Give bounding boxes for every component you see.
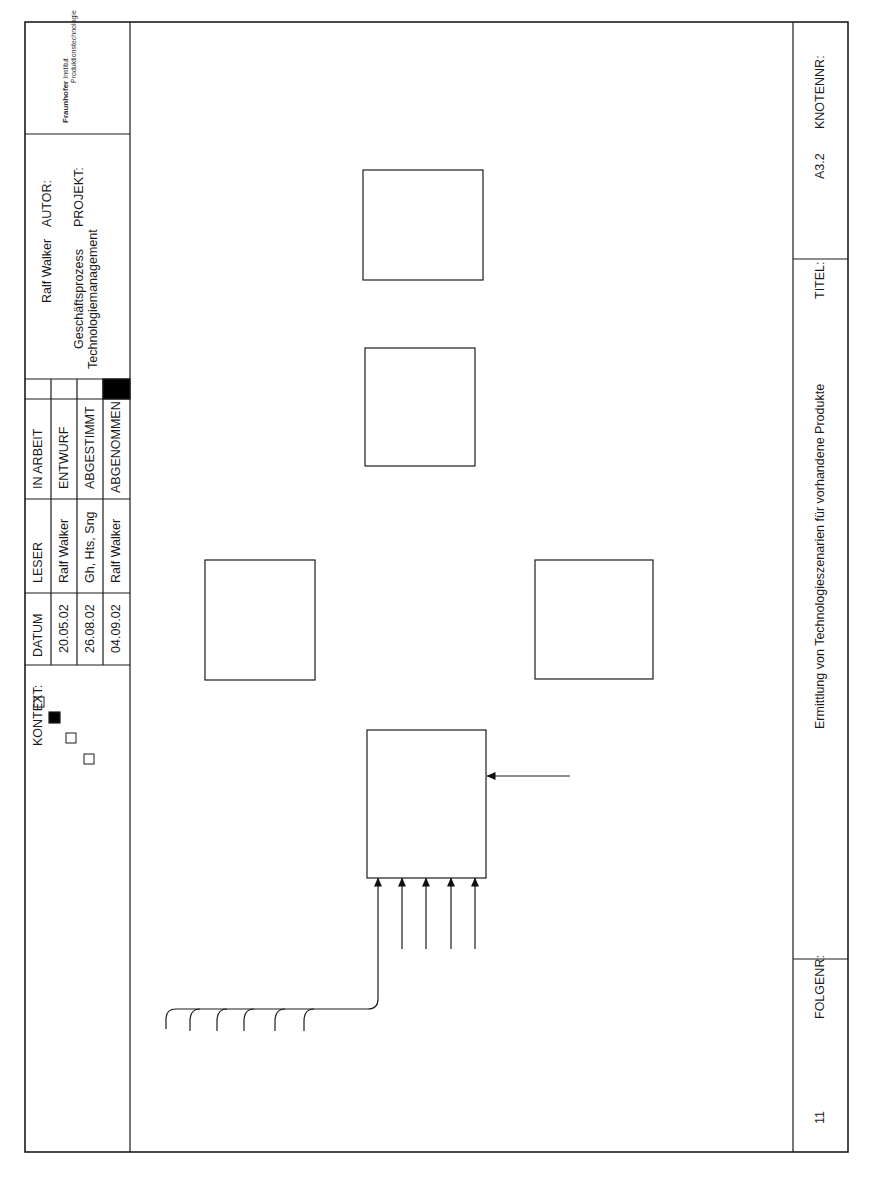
autor-value: Ralf Walker — [40, 239, 55, 303]
knotennr-value: A3.2 — [813, 153, 828, 179]
status-abgenommen: ABGENOMMEN — [109, 401, 124, 493]
fraunhofer-logo: Fraunhofer Institut Produktionstechnolog… — [62, 10, 78, 123]
status-entwurf: ENTWURF — [57, 427, 72, 490]
projekt-label: PROJEKT: — [72, 167, 87, 227]
datum-2: 26.08.02 — [83, 604, 98, 653]
status-abgestimmt: ABGESTIMMT — [83, 406, 98, 489]
titel-label: TITEL: — [813, 261, 828, 299]
datum-3: 04.09.02 — [109, 604, 124, 653]
datum-header: DATUM — [31, 613, 46, 657]
idef0-sheet: Fraunhofer Institut Produktionstechnolog… — [0, 0, 871, 1179]
autor-label: AUTOR: — [40, 180, 55, 227]
titel-value: Ermittlung von Technologieszenarien für … — [813, 384, 828, 729]
folgenr-label: FOLGENR: — [813, 955, 828, 1019]
projekt-line2: Technologiemanagement — [86, 229, 101, 369]
knotennr-label: KNOTENNR: — [813, 55, 828, 129]
leser-2: Gh, Hts, Sng — [83, 511, 98, 583]
datum-1: 20.05.02 — [57, 604, 72, 653]
leser-1: Ralf Walker — [57, 519, 72, 583]
projekt-line1: Geschäftsprozess — [72, 249, 87, 349]
status-in-arbeit: IN ARBEIT — [31, 429, 46, 489]
kontext-label: KONTEXT: — [31, 685, 46, 746]
leser-header: LESER — [31, 542, 46, 583]
idef0-drawing — [0, 0, 871, 1179]
folgenr-value: 11 — [813, 1111, 828, 1124]
leser-3: Ralf Walker — [109, 519, 124, 583]
